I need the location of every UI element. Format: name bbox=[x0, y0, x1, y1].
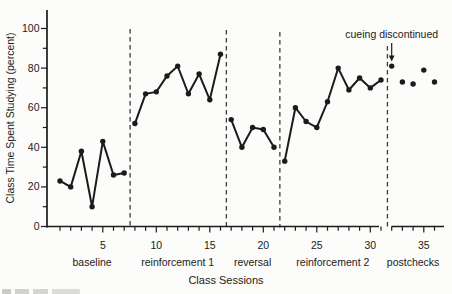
data-point-session-1 bbox=[57, 178, 62, 183]
y-tick-label-80: 80 bbox=[28, 62, 40, 74]
x-axis-title: Class Sessions bbox=[188, 274, 264, 286]
data-point-session-25 bbox=[314, 125, 319, 130]
data-point-session-33 bbox=[400, 79, 405, 84]
down-arrow-icon bbox=[389, 56, 395, 62]
data-point-session-2 bbox=[68, 184, 73, 189]
data-point-session-5 bbox=[100, 139, 105, 144]
x-tick-label-35: 35 bbox=[418, 239, 430, 251]
y-axis-title: Class Time Spent Studying (percent) bbox=[4, 33, 16, 204]
figure-root: 0204060801005101520253035baselinereinfor… bbox=[0, 0, 452, 294]
data-point-session-21 bbox=[271, 145, 276, 150]
y-tick-label-0: 0 bbox=[34, 220, 40, 232]
x-tick-label-15: 15 bbox=[204, 239, 216, 251]
data-point-session-9 bbox=[143, 91, 148, 96]
x-tick-label-30: 30 bbox=[364, 239, 376, 251]
data-point-session-24 bbox=[303, 119, 308, 124]
phase-label-reinforcement-1: reinforcement 1 bbox=[141, 256, 214, 268]
data-point-session-17 bbox=[229, 117, 234, 122]
data-point-session-6 bbox=[111, 172, 116, 177]
data-point-session-4 bbox=[89, 204, 94, 209]
phase-label-postchecks: postchecks bbox=[387, 256, 440, 268]
x-tick-label-10: 10 bbox=[150, 239, 162, 251]
data-point-session-26 bbox=[325, 99, 330, 104]
series-line-reinforcement-2 bbox=[285, 68, 381, 161]
data-point-session-12 bbox=[175, 63, 180, 68]
data-point-session-29 bbox=[357, 75, 362, 80]
x-tick-label-5: 5 bbox=[100, 239, 106, 251]
data-point-session-27 bbox=[336, 65, 341, 70]
x-tick-label-25: 25 bbox=[311, 239, 323, 251]
data-point-session-10 bbox=[154, 89, 159, 94]
data-point-session-8 bbox=[132, 121, 137, 126]
data-point-session-34 bbox=[410, 81, 415, 86]
x-tick-label-20: 20 bbox=[257, 239, 269, 251]
phase-label-baseline: baseline bbox=[73, 256, 112, 268]
y-tick-label-60: 60 bbox=[28, 101, 40, 113]
data-point-session-30 bbox=[368, 85, 373, 90]
y-tick-label-20: 20 bbox=[28, 180, 40, 192]
data-point-session-11 bbox=[164, 73, 169, 78]
y-tick-label-40: 40 bbox=[28, 141, 40, 153]
data-point-session-14 bbox=[196, 71, 201, 76]
data-point-session-36 bbox=[432, 79, 437, 84]
data-point-session-13 bbox=[186, 91, 191, 96]
cropped-caption-sliver bbox=[2, 289, 80, 294]
annotation-cueing-discontinued: cueing discontinued bbox=[345, 28, 438, 40]
data-point-session-3 bbox=[79, 149, 84, 154]
phase-label-reinforcement-2: reinforcement 2 bbox=[296, 256, 369, 268]
phase-label-reversal: reversal bbox=[234, 256, 271, 268]
data-point-session-7 bbox=[122, 170, 127, 175]
data-point-session-15 bbox=[207, 97, 212, 102]
data-point-session-16 bbox=[218, 52, 223, 57]
study-behavior-chart: 0204060801005101520253035baselinereinfor… bbox=[0, 0, 452, 294]
data-point-session-28 bbox=[346, 87, 351, 92]
data-point-session-18 bbox=[239, 145, 244, 150]
data-point-session-23 bbox=[293, 105, 298, 110]
data-point-session-31 bbox=[378, 77, 383, 82]
data-point-session-20 bbox=[261, 127, 266, 132]
data-point-session-22 bbox=[282, 158, 287, 163]
data-point-session-32 bbox=[389, 63, 394, 68]
series-line-reversal bbox=[231, 120, 274, 148]
data-point-session-19 bbox=[250, 125, 255, 130]
y-tick-label-100: 100 bbox=[22, 22, 40, 34]
data-point-session-35 bbox=[421, 67, 426, 72]
